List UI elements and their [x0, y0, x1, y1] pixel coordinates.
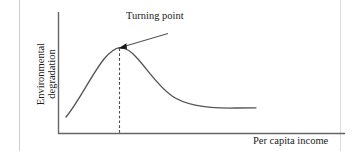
y-axis-label-line-2: degradation — [46, 49, 57, 99]
turning-point-leader-line — [123, 34, 168, 47]
x-axis-label: Per capita income — [253, 135, 328, 147]
kuznets-curve — [66, 48, 256, 117]
turning-point-arrowhead — [118, 43, 127, 49]
y-axis-label-line-1: Environmental — [35, 43, 46, 105]
turning-point-label: Turning point — [126, 10, 184, 22]
environmental-kuznets-curve-figure: Environmental degradation Per capita inc… — [0, 0, 352, 151]
y-axis-label: Environmental degradation — [0, 28, 92, 120]
